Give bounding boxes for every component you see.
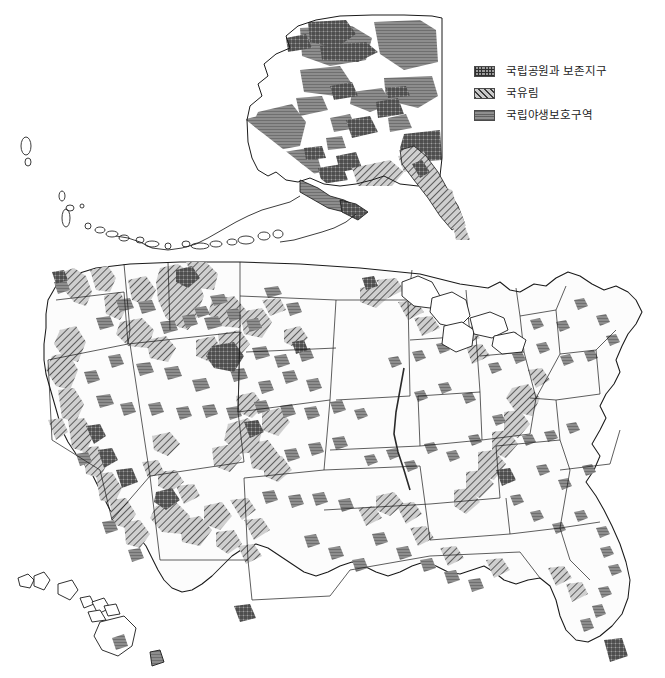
map-figure: 국립공원과 보존지구 국유림 국립야생보호구역 <box>0 0 665 678</box>
legend-item-wildlife-refuges[interactable]: 국립야생보호구역 <box>474 104 654 126</box>
legend-swatch-wildlife-refuges-icon <box>474 110 495 121</box>
legend-label-wildlife-refuges: 국립야생보호구역 <box>506 109 592 122</box>
map-legend: 국립공원과 보존지구 국유림 국립야생보호구역 <box>474 60 654 126</box>
legend-label-national-forests: 국유림 <box>506 87 538 100</box>
legend-swatch-national-forests-icon <box>474 88 495 99</box>
legend-swatch-national-parks-icon <box>474 66 495 77</box>
legend-label-national-parks: 국립공원과 보존지구 <box>506 65 607 78</box>
legend-item-national-parks[interactable]: 국립공원과 보존지구 <box>474 60 654 82</box>
legend-item-national-forests[interactable]: 국유림 <box>474 82 654 104</box>
